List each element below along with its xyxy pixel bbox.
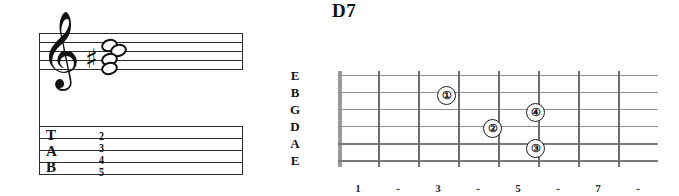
tab-end-barline <box>242 126 243 175</box>
finger-marker-2[interactable]: ② <box>483 119 502 138</box>
tab-letter-t: T <box>46 128 56 143</box>
string-label-e-low: E <box>288 154 302 167</box>
fret-6 <box>578 71 580 167</box>
system-barline <box>39 33 40 175</box>
fret-label-5: 5 <box>508 183 528 194</box>
music-notation-system: 𝄞 ♯ T A B 2 3 4 5 <box>0 0 260 196</box>
tab-line <box>39 162 243 163</box>
nut <box>338 71 342 167</box>
fret-4 <box>498 71 500 167</box>
finger-marker-4[interactable]: ④ <box>526 103 545 122</box>
string-label-e-high: E <box>288 69 302 82</box>
fret-label-6: - <box>548 183 568 194</box>
tab-line <box>39 174 243 175</box>
tab-fret-number: 5 <box>99 166 104 179</box>
string-label-d: D <box>288 120 302 133</box>
fret-label-8: - <box>628 183 648 194</box>
fret-label-1: 1 <box>348 183 368 194</box>
tab-line <box>39 126 243 127</box>
tab-letter-a: A <box>46 144 57 159</box>
tab-line <box>39 138 243 139</box>
string-label-b: B <box>288 86 302 99</box>
fret-label-2: - <box>388 183 408 194</box>
fret-2 <box>418 71 420 167</box>
chord-title: D7 <box>332 0 356 22</box>
sharp-accidental-icon: ♯ <box>85 45 98 72</box>
fret-label-3: 3 <box>428 183 448 194</box>
finger-marker-3[interactable]: ③ <box>526 139 545 158</box>
fret-1 <box>378 71 380 167</box>
fret-3 <box>458 71 460 167</box>
tab-letter-b: B <box>46 160 56 175</box>
string-label-g: G <box>288 103 302 116</box>
string-label-a: A <box>288 137 302 150</box>
fretboard-grid: ① ② ③ ④ 1 - 3 - 5 - 7 - <box>338 71 658 167</box>
fret-label-7: 7 <box>588 183 608 194</box>
treble-end-barline <box>242 33 243 70</box>
fretboard-diagram: E B G D A E ① ② ③ ④ 1 - 3 - 5 - 7 - <box>288 60 679 196</box>
tab-line <box>39 150 243 151</box>
tab-staff <box>39 126 243 175</box>
fret-7 <box>618 71 620 167</box>
treble-clef-icon: 𝄞 <box>41 17 80 83</box>
fret-label-4: - <box>468 183 488 194</box>
finger-marker-1[interactable]: ① <box>437 86 456 105</box>
